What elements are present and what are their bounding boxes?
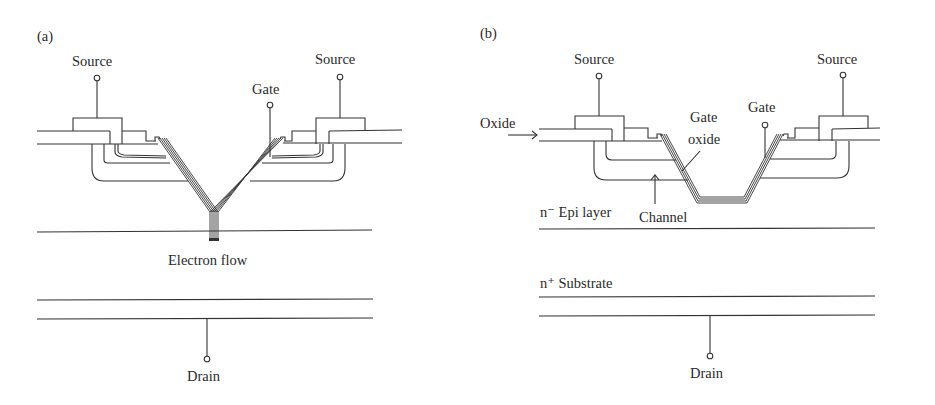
v-groove-gate-oxide-left (158, 138, 218, 212)
gate-terminal-icon-b (762, 122, 768, 128)
panel-b-substrate-label: n⁺ Substrate (540, 275, 613, 291)
panel-b-gate-oxide-label-1: Gate (690, 109, 717, 125)
drain-terminal-icon-a (204, 356, 210, 362)
panel-b-gate-oxide-label-2: oxide (688, 131, 720, 147)
panel-a-gate-label: Gate (252, 81, 279, 97)
mosfet-diagram: (a) Source Source (0, 0, 935, 405)
panel-b-epi-label: n⁻ Epi layer (540, 204, 611, 220)
panel-b-channel-label: Channel (639, 209, 687, 225)
panel-b-source-right-label: Source (817, 51, 857, 67)
source-right-terminal-icon-b (840, 72, 846, 78)
electron-flow-arrows (209, 212, 219, 241)
panel-a-drain-label: Drain (187, 368, 221, 384)
panel-b-source-left-label: Source (574, 51, 614, 67)
panel-b: (b) Source Oxide Gate oxide (480, 25, 880, 381)
panel-b-gate-label: Gate (748, 99, 775, 115)
panel-b-drain-label: Drain (690, 365, 724, 381)
panel-a-source-right-label: Source (315, 51, 355, 67)
panel-a-source-left-label: Source (72, 53, 112, 69)
panel-a: (a) Source Source (37, 28, 402, 384)
drain-terminal-icon-b (707, 353, 713, 359)
source-left-terminal-icon (94, 75, 100, 81)
panel-b-oxide-label: Oxide (480, 115, 515, 131)
panel-b-tag: (b) (480, 25, 497, 42)
panel-a-electron-flow-label: Electron flow (168, 252, 248, 268)
gate-terminal-icon (267, 102, 273, 108)
v-groove-gate-oxide-right (210, 138, 283, 212)
panel-a-tag: (a) (37, 28, 53, 45)
source-right-terminal-icon (337, 74, 343, 80)
source-left-terminal-icon-b (596, 73, 602, 79)
